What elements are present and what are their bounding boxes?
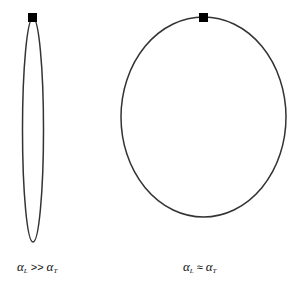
alpha-l: α	[183, 259, 190, 274]
narrow-ellipse	[23, 18, 44, 242]
label-right: αL≈αT	[183, 259, 217, 275]
source-marker-right	[199, 13, 208, 22]
approx-equal-operator: ≈	[194, 261, 206, 273]
wide-ellipse	[121, 17, 286, 217]
alpha-t: α	[206, 259, 213, 274]
source-marker-left	[28, 13, 37, 22]
alpha-l: α	[17, 259, 24, 274]
much-greater-operator: >>	[28, 261, 47, 273]
diagram-canvas	[0, 0, 298, 286]
label-left: αL>>αT	[17, 259, 57, 275]
